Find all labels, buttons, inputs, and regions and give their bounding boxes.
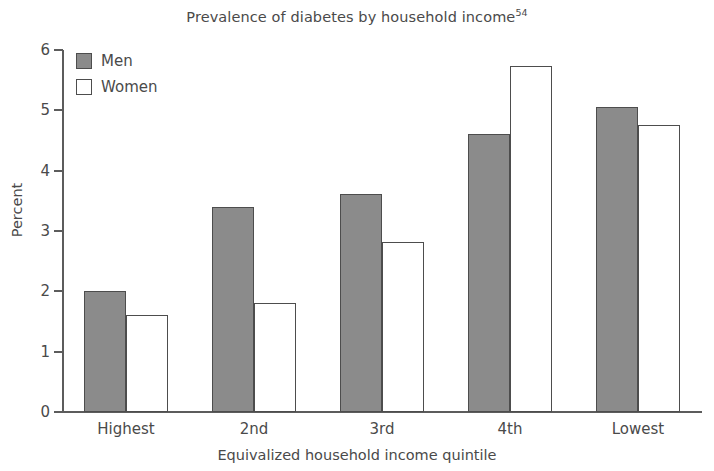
y-axis-tick-label: 3 [4, 224, 50, 239]
x-axis-tick-label: 4th [498, 420, 523, 438]
chart-title: Prevalence of diabetes by household inco… [0, 9, 714, 25]
legend-label-men: Men [101, 54, 133, 69]
legend-swatch-men [76, 53, 92, 69]
chart-title-superscript: 54 [515, 7, 527, 18]
legend-item-women: Women [76, 74, 196, 100]
y-axis-tick-label: 5 [4, 103, 50, 118]
x-axis-tick-label: Lowest [612, 420, 664, 438]
bar-women-highest [126, 315, 168, 412]
bars-layer [62, 50, 702, 412]
x-axis-tick-label: 2nd [240, 420, 269, 438]
y-axis-tick-label: 2 [4, 284, 50, 299]
bar-men-2nd [212, 207, 254, 412]
bar-women-4th [510, 66, 552, 412]
y-axis-tick-label: 6 [4, 43, 50, 58]
x-axis-tick-label: 3rd [370, 420, 395, 438]
bar-women-2nd [254, 303, 296, 412]
bar-women-lowest [638, 125, 680, 412]
x-axis-title: Equivalized household income quintile [0, 447, 714, 463]
x-axis-tick-label: Highest [97, 420, 154, 438]
y-axis-tick-labels: 0123456 [0, 0, 50, 471]
legend-swatch-women [76, 79, 92, 95]
bar-men-4th [468, 134, 510, 412]
chart-legend: Men Women [76, 48, 196, 100]
x-axis-tick-labels: Highest2nd3rd4thLowest [62, 420, 702, 446]
legend-label-women: Women [101, 80, 157, 95]
bar-women-3rd [382, 242, 424, 412]
chart-title-text: Prevalence of diabetes by household inco… [186, 9, 515, 25]
bar-men-highest [84, 291, 126, 412]
y-axis-tick-label: 4 [4, 163, 50, 178]
bar-men-lowest [596, 107, 638, 412]
legend-item-men: Men [76, 48, 196, 74]
chart-figure: Prevalence of diabetes by household inco… [0, 0, 714, 471]
y-axis-tick-label: 0 [4, 405, 50, 420]
bar-men-3rd [340, 194, 382, 412]
y-axis-tick-label: 1 [4, 344, 50, 359]
